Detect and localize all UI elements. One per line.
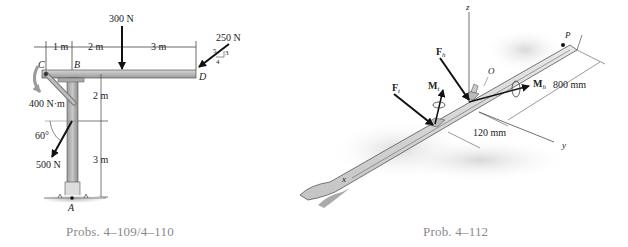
- point-a-label: A: [67, 202, 75, 213]
- dim-cb: 1 m: [53, 41, 69, 52]
- dim-b-load: 2 m: [88, 41, 104, 52]
- angle-arc: [50, 121, 60, 140]
- point-c-label: C: [38, 59, 45, 70]
- vertical-force-label: 300 N: [109, 13, 134, 24]
- force-fh-label: Fh: [436, 46, 446, 59]
- point-d-label: D: [198, 71, 207, 82]
- point-b-label: B: [74, 59, 80, 70]
- dim-upper-col: 2 m: [93, 90, 109, 101]
- dim-length: 800 mm: [553, 79, 586, 90]
- couple-moment-label: 400 N·m: [29, 98, 65, 109]
- ski-diagram: z y x P O Fh Ft Mt Mh 800 mm 120 mm: [280, 0, 628, 247]
- pin-c: [44, 72, 48, 76]
- y-axis-label: y: [561, 140, 566, 150]
- dim-offset: 120 mm: [473, 127, 506, 138]
- horizontal-beam: [42, 70, 196, 78]
- bracket-plate: [58, 78, 84, 82]
- dim-lower-col: 3 m: [93, 154, 109, 165]
- caption-left: Probs. 4–109/4–110: [66, 224, 174, 240]
- moment-mh-label: Mh: [533, 78, 546, 91]
- dim-load-d: 3 m: [151, 41, 167, 52]
- point-p: [561, 43, 565, 47]
- column-base: [65, 182, 80, 196]
- slope-hyp: 5: [213, 47, 217, 55]
- force-fh-arrow: [440, 58, 469, 100]
- x-axis-label: x: [341, 174, 346, 184]
- force-ft-label: Ft: [392, 82, 401, 95]
- ski-figure: z y x P O Fh Ft Mt Mh 800 mm 120 mm: [280, 0, 628, 247]
- slope-run: 4: [216, 58, 220, 66]
- frame-diagram: 1 m 2 m 3 m 300 N 250 N 5 3 4 C B D 400 …: [0, 0, 280, 247]
- point-o-label: O: [488, 66, 495, 76]
- inclined-force-label: 250 N: [216, 32, 241, 43]
- point-p-label: P: [564, 30, 571, 40]
- frame-figure: 1 m 2 m 3 m 300 N 250 N 5 3 4 C B D 400 …: [0, 0, 280, 247]
- z-axis-label: z: [465, 2, 470, 12]
- moment-mt-label: Mt: [428, 80, 440, 93]
- caption-right: Prob. 4–112: [423, 224, 488, 240]
- angled-force-label: 500 N: [36, 159, 61, 170]
- angle-label: 60°: [35, 130, 49, 141]
- slope-rise: 3: [225, 49, 229, 57]
- point-a: [70, 196, 74, 200]
